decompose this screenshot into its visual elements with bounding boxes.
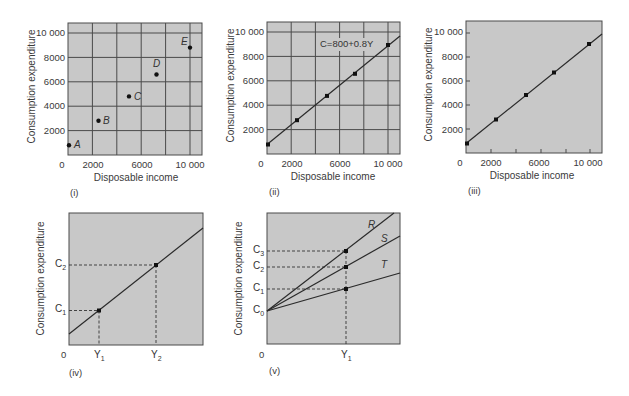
point-c3 bbox=[344, 249, 348, 253]
panel-v: R S T C3 C2 C1 C0 0 Y1 Consumption expen… bbox=[0, 0, 629, 396]
point-c2 bbox=[344, 265, 348, 269]
origin-label: 0 bbox=[259, 349, 264, 360]
line-label-s: S bbox=[381, 233, 388, 244]
y-axis-label: Consumption expenditure bbox=[233, 209, 244, 349]
panel-v-plot bbox=[0, 0, 629, 396]
panel-label: (v) bbox=[269, 365, 280, 376]
y-mark-c0: C0 bbox=[253, 304, 264, 317]
point-c1 bbox=[344, 287, 348, 291]
x-mark-y1: Y1 bbox=[341, 349, 352, 362]
y-mark-c2: C2 bbox=[253, 260, 264, 273]
y-mark-c1: C1 bbox=[253, 282, 264, 295]
y-mark-c3: C3 bbox=[253, 244, 264, 257]
line-label-t: T bbox=[381, 259, 387, 270]
line-label-r: R bbox=[368, 219, 375, 230]
